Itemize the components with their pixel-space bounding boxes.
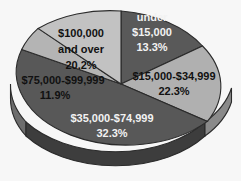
label-75000-99999-line1: $75,000-$99,999	[21, 74, 104, 86]
label-100000-and-over-line1: $100,000	[58, 27, 104, 39]
label-under-15000-line1: under	[137, 11, 168, 23]
label-35000-74999-line1: $35,000-$74,999	[70, 112, 153, 124]
pie-chart-figure: under $15,000 13.3% $15,000-$34,999 22.3…	[0, 0, 241, 181]
label-under-15000: under $15,000 13.3%	[132, 11, 172, 53]
label-under-15000-line2: $15,000	[132, 26, 172, 38]
label-100000-and-over-line2: and over	[58, 43, 105, 55]
label-15000-34999-value: 22.3%	[158, 85, 189, 97]
label-under-15000-value: 13.3%	[136, 41, 167, 53]
label-35000-74999-value: 32.3%	[96, 127, 127, 139]
pie-chart-svg: under $15,000 13.3% $15,000-$34,999 22.3…	[0, 0, 241, 181]
label-75000-99999-value: 11.9%	[40, 89, 71, 101]
label-100000-and-over-value: 20.2%	[65, 59, 96, 71]
label-15000-34999-line1: $15,000-$34,999	[132, 70, 215, 82]
